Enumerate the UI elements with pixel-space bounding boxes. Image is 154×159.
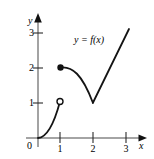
x-tick-label-1: 1	[58, 144, 63, 154]
open-endpoint-marker	[57, 99, 63, 105]
y-axis-arrowhead	[34, 13, 42, 23]
y-tick-label-3: 3	[29, 28, 34, 38]
filled-endpoint-marker	[57, 64, 63, 70]
function-annotation: y = f(x)	[74, 35, 104, 45]
y-tick-label-2: 2	[29, 63, 34, 73]
y-tick-label-1: 1	[29, 98, 34, 108]
plot-canvas	[0, 0, 154, 159]
curve-branch-2	[61, 67, 93, 102]
origin-label: 0	[27, 141, 32, 151]
y-axis-label: y	[28, 16, 32, 26]
curve-branch-1	[38, 102, 60, 139]
x-tick-label-3: 3	[124, 144, 129, 154]
x-tick-label-2: 2	[91, 144, 96, 154]
function-graph-figure: y x 0 3 2 1 1 2 3 y = f(x)	[0, 0, 154, 159]
x-axis-label: x	[139, 141, 143, 151]
